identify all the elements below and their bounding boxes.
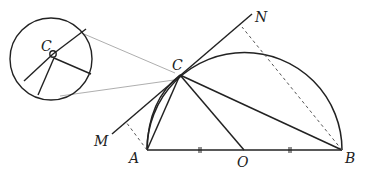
tangent-line-mn bbox=[112, 14, 252, 134]
label-c: C bbox=[172, 57, 183, 73]
magnifier-connector-bottom bbox=[60, 80, 174, 96]
segment-co bbox=[180, 75, 244, 150]
label-b: B bbox=[344, 150, 355, 166]
perpendicular-a-to-mn bbox=[126, 122, 147, 150]
label-m: M bbox=[93, 133, 109, 149]
diagram-canvas: C C N M A O B bbox=[0, 0, 368, 179]
label-o: O bbox=[237, 154, 249, 170]
perpendicular-b-to-mn bbox=[242, 27, 342, 150]
magnifier-label-c: C bbox=[41, 38, 52, 54]
magnifier-circle bbox=[10, 18, 92, 100]
segment-ca bbox=[147, 75, 180, 150]
label-n: N bbox=[254, 9, 268, 25]
geometry-diagram: C C N M A O B bbox=[0, 0, 368, 179]
label-a: A bbox=[127, 150, 139, 166]
magnifier-chord-ca bbox=[38, 58, 54, 95]
magnifier-connector-top bbox=[84, 34, 175, 73]
magnifier-tangent-up bbox=[53, 29, 86, 54]
magnifier-chord-cb bbox=[54, 58, 91, 74]
magnifier-tangent-down bbox=[24, 54, 53, 81]
